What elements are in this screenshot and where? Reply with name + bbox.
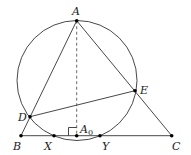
point-y bbox=[98, 134, 102, 138]
label-a: A bbox=[71, 5, 80, 18]
label-a0-main: A bbox=[79, 123, 88, 136]
point-b bbox=[19, 134, 23, 138]
label-a0: A0 bbox=[79, 123, 93, 137]
point-a0 bbox=[75, 134, 79, 138]
segment-ac bbox=[77, 21, 172, 136]
point-c bbox=[170, 134, 174, 138]
label-b: B bbox=[12, 140, 21, 153]
geometry-diagram: A B C D E X Y A0 bbox=[0, 0, 191, 155]
point-d bbox=[28, 115, 32, 119]
label-e: E bbox=[139, 84, 148, 97]
segment-de bbox=[30, 91, 135, 117]
point-e bbox=[133, 89, 137, 93]
label-x: X bbox=[43, 140, 53, 153]
label-c: C bbox=[172, 140, 181, 153]
label-a0-subscript: 0 bbox=[88, 128, 93, 137]
label-d: D bbox=[17, 111, 27, 124]
segment-ab bbox=[21, 21, 77, 136]
label-y: Y bbox=[102, 140, 111, 153]
point-x bbox=[52, 134, 56, 138]
point-a bbox=[75, 19, 79, 23]
